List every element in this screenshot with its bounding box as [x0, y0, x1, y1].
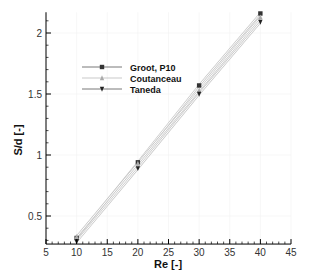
y-axis-title: S/d [-] — [12, 124, 24, 155]
x-tick-label: 10 — [71, 247, 83, 258]
y-tick-label: 1 — [36, 150, 42, 161]
x-tick-label: 30 — [194, 247, 206, 258]
y-tick-label: 0.5 — [28, 211, 42, 222]
legend-marker-icon — [100, 65, 104, 69]
x-tick-label: 25 — [163, 247, 175, 258]
legend-label: Taneda — [130, 85, 162, 95]
x-axis-title: Re [-] — [154, 258, 182, 270]
x-tick-label: 15 — [102, 247, 114, 258]
y-tick-label: 2 — [36, 28, 42, 39]
chart: 510152025303540450.511.52 Re [-] S/d [-]… — [0, 0, 310, 277]
legend: Groot, P10CoutanceauTaneda — [82, 63, 182, 95]
x-tick-label: 45 — [285, 247, 297, 258]
x-tick-label: 20 — [132, 247, 144, 258]
x-tick-label: 5 — [43, 247, 49, 258]
legend-label: Coutanceau — [130, 74, 182, 84]
data-point-marker — [197, 83, 201, 87]
x-tick-label: 40 — [255, 247, 267, 258]
y-tick-label: 1.5 — [28, 89, 42, 100]
x-tick-label: 35 — [224, 247, 236, 258]
legend-label: Groot, P10 — [130, 63, 176, 73]
